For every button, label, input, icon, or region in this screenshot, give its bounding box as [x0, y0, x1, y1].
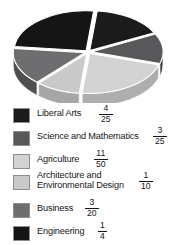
- legend-swatch-1: [13, 131, 30, 146]
- legend-fraction-2: 1150: [94, 149, 108, 169]
- fraction-denominator-4: 20: [85, 209, 99, 219]
- fraction-numerator-0: 4: [99, 104, 113, 114]
- fraction-numerator-2: 11: [94, 149, 108, 159]
- legend-swatch-2: [13, 154, 30, 169]
- fraction-denominator-3: 10: [139, 182, 153, 192]
- legend-swatch-4: [13, 203, 30, 218]
- fraction-denominator-5: 4: [98, 232, 107, 242]
- fraction-numerator-4: 3: [85, 198, 99, 208]
- legend-fraction-4: 320: [85, 198, 99, 218]
- legend-label-5: Engineering: [37, 226, 84, 236]
- pie-svg: [0, 0, 176, 103]
- legend-swatch-5: [13, 226, 30, 241]
- pie-chart-figure: Liberal Arts425Science and Mathematics32…: [0, 0, 176, 245]
- legend-swatch-0: [13, 108, 30, 123]
- fraction-numerator-1: 3: [153, 126, 167, 136]
- legend-fraction-5: 14: [98, 221, 107, 241]
- legend-label-0: Liberal Arts: [37, 108, 81, 118]
- legend-fraction-1: 325: [153, 126, 167, 146]
- legend-label-1: Science and Mathematics: [37, 131, 139, 141]
- legend-swatch-3: [13, 175, 30, 190]
- legend-fraction-3: 110: [139, 171, 153, 191]
- fraction-numerator-5: 1: [98, 221, 107, 231]
- legend-label-3: Architecture and Environmental Design: [37, 170, 124, 191]
- fraction-denominator-2: 50: [94, 160, 108, 170]
- legend-label-2: Agriculture: [37, 154, 79, 164]
- legend-fraction-0: 425: [99, 104, 113, 124]
- pie-slice-5: [15, 11, 94, 51]
- fraction-denominator-1: 25: [153, 137, 167, 147]
- fraction-denominator-0: 25: [99, 115, 113, 125]
- fraction-numerator-3: 1: [139, 171, 153, 181]
- pie-chart-graphic: [0, 0, 176, 103]
- legend-label-4: Business: [37, 203, 73, 213]
- chart-legend: Liberal Arts425Science and Mathematics32…: [0, 104, 176, 245]
